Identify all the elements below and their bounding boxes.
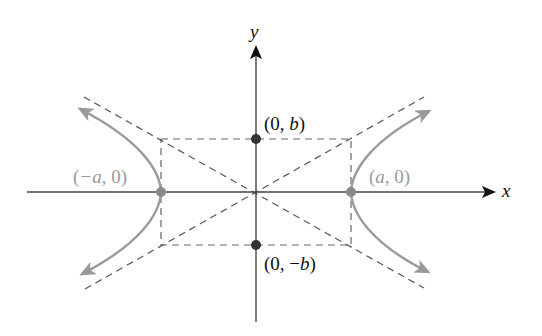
left-vertex-point — [156, 187, 166, 197]
top-covertex-label: (0, b) — [264, 113, 305, 135]
right-vertex-point — [346, 187, 356, 197]
bottom-covertex-label: (0, −b) — [264, 253, 316, 275]
top-covertex-point — [251, 134, 261, 144]
left-vertex-label: (−a, 0) — [73, 166, 127, 188]
bottom-covertex-point — [251, 240, 261, 250]
right-vertex-label: (a, 0) — [369, 166, 410, 188]
hyperbola-diagram: y x (0, b) (0, −b) (−a, 0) (a, 0) — [0, 0, 542, 336]
left-branch-lower — [82, 192, 161, 274]
y-axis-label: y — [248, 21, 259, 42]
x-axis-label: x — [501, 180, 511, 201]
right-branch-lower — [351, 192, 428, 272]
